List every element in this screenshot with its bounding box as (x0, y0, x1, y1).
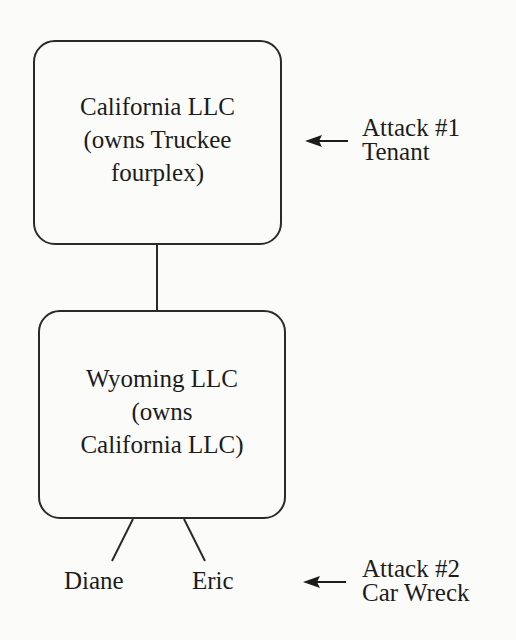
owner-line-eric (184, 519, 205, 561)
attack-description: Car Wreck (362, 581, 470, 605)
arrow-left-icon (305, 135, 348, 147)
attack-1-label: Attack #1 Tenant (362, 116, 460, 164)
node-subtitle: fourplex) (80, 156, 235, 189)
wyoming-llc-node: Wyoming LLC (owns California LLC) (38, 310, 286, 519)
owner-eric: Eric (192, 568, 234, 594)
node-title: California LLC (80, 90, 235, 123)
attack-description: Tenant (362, 140, 460, 164)
node-subtitle: California LLC) (80, 428, 243, 461)
owner-line-diane (112, 519, 133, 561)
node-subtitle: (owns Truckee (80, 123, 235, 156)
attack-title: Attack #1 (362, 116, 460, 140)
attack-2-label: Attack #2 Car Wreck (362, 557, 470, 605)
node-subtitle: (owns (80, 395, 243, 428)
owner-diane: Diane (64, 568, 124, 594)
node-title: Wyoming LLC (80, 362, 243, 395)
arrow-left-icon (303, 576, 346, 588)
attack-title: Attack #2 (362, 557, 470, 581)
california-llc-node: California LLC (owns Truckee fourplex) (33, 40, 282, 245)
